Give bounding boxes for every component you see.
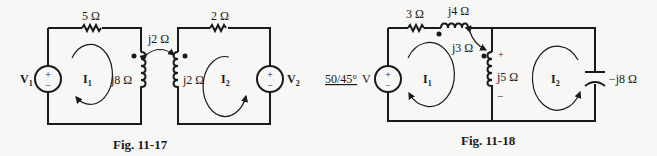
label-i1: I1 <box>83 72 92 88</box>
dot-marker <box>183 54 188 59</box>
label-j2ohm: j2 Ω <box>182 73 204 87</box>
plus-sign: + <box>267 69 273 80</box>
label-i2: I2 <box>551 72 560 88</box>
label-mutual-j3ohm: j3 Ω <box>451 41 473 55</box>
minus-sign: − <box>385 80 391 91</box>
plus-sign: + <box>498 49 504 60</box>
wire-left-loop <box>388 28 595 121</box>
label-2ohm: 2 Ω <box>211 9 229 23</box>
label-i1: I1 <box>423 72 432 88</box>
inductor-j8 <box>141 52 146 94</box>
mutual-coupling-arrow <box>146 50 174 56</box>
resistor-3ohm <box>408 25 424 31</box>
inductor-j4 <box>441 24 474 29</box>
label-i2: I2 <box>221 72 230 88</box>
label-source-phasor: 50/45° <box>325 72 357 86</box>
inductor-j5 <box>488 52 493 92</box>
minus-sign: − <box>497 90 503 102</box>
plus-sign: + <box>385 69 391 80</box>
mesh-current-i2-arrow <box>203 57 246 117</box>
plus-sign: + <box>45 69 51 80</box>
resistor-2ohm <box>210 25 226 31</box>
figure-caption: Fig. 11-17 <box>113 137 168 152</box>
label-source-unit: V <box>362 72 371 86</box>
dot-marker <box>132 54 137 59</box>
figure-11-18: 3 Ω j4 Ω j3 Ω + − j5 Ω + − 50/45° V I1 −… <box>325 4 637 148</box>
label-j5ohm: j5 Ω <box>496 70 518 84</box>
label-mutual-j2ohm: j2 Ω <box>147 32 169 46</box>
resistor-5ohm <box>82 25 101 31</box>
figure-11-17: + − V1 I1 5 Ω j8 Ω j2 Ω j2 Ω 2 Ω + − V2 … <box>20 9 300 152</box>
dot-marker <box>482 54 487 59</box>
minus-sign: − <box>45 80 51 91</box>
label-5ohm: 5 Ω <box>82 9 100 23</box>
inductor-j2 <box>174 52 179 94</box>
dot-marker <box>437 32 442 37</box>
mesh-current-i1-arrow <box>72 44 112 104</box>
minus-sign: − <box>267 80 273 91</box>
mesh-current-i1-arrow <box>408 43 454 107</box>
label-j8ohm: j8 Ω <box>110 73 132 87</box>
label-v2: V2 <box>287 72 300 88</box>
label-v1: V1 <box>20 72 33 88</box>
capacitor-neg-j8 <box>585 72 605 86</box>
figure-caption: Fig. 11-18 <box>461 133 516 148</box>
label-j4ohm: j4 Ω <box>447 4 469 18</box>
label-neg-j8ohm: −j8 Ω <box>609 72 637 86</box>
label-3ohm: 3 Ω <box>406 7 424 21</box>
